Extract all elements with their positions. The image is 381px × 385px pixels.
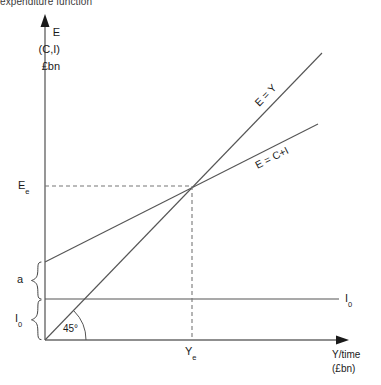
autonomous-investment-brace-icon (32, 300, 42, 340)
x-axis-label-group: Y/time (£bn) (332, 348, 360, 375)
equilibrium-expenditure-tick-label: Ee (18, 179, 30, 195)
expenditure-line (45, 124, 318, 262)
x-axis-label-line-1: Y/time (332, 348, 360, 362)
autonomous-investment-brace-label: I0 (15, 312, 22, 328)
forty-five-degree-line (45, 53, 322, 340)
equilibrium-expenditure-subscript: e (25, 187, 29, 196)
autonomous-consumption-brace-icon (32, 262, 42, 299)
investment-line-label: I0 (345, 292, 352, 308)
angle-label: 45° (63, 323, 78, 335)
expenditure-function-diagram: expenditure function E (C,I) £bn Ee (0, 0, 381, 385)
equilibrium-income-subscript: e (192, 353, 196, 362)
x-axis-arrow-icon (336, 336, 349, 345)
equilibrium-income-tick-label: Ye (185, 345, 197, 361)
y-axis-label-line-2: (C,I) (2, 41, 60, 58)
y-axis-label-group: E (C,I) £bn (2, 24, 60, 75)
y-axis-label-line-1: E (2, 24, 60, 41)
investment-line-subscript: 0 (348, 300, 352, 309)
x-axis-label-line-2: (£bn) (332, 362, 360, 376)
autonomous-consumption-label: a (17, 273, 23, 286)
autonomous-investment-subscript: 0 (18, 320, 22, 329)
y-axis-label-line-3: £bn (2, 58, 60, 75)
